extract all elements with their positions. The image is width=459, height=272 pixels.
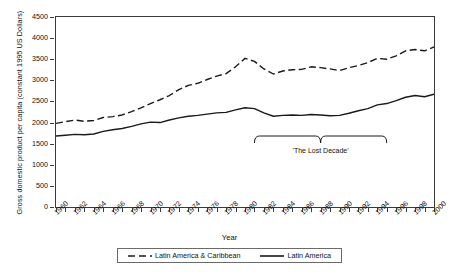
x-axis-tick-labels: 1960196219641966196819701972197419761978… bbox=[0, 0, 459, 272]
x-tick-label: 1980 bbox=[242, 200, 259, 217]
x-tick-label: 1982 bbox=[261, 200, 278, 217]
legend-item-latin-america-caribbean[interactable]: Latin America & Caribbean bbox=[128, 251, 241, 260]
x-tick-label: 1994 bbox=[374, 200, 391, 217]
x-tick-label: 1992 bbox=[355, 200, 372, 217]
x-tick-label: 1968 bbox=[129, 200, 146, 217]
x-tick-label: 1966 bbox=[110, 200, 127, 217]
x-tick-label: 1964 bbox=[91, 200, 108, 217]
chart-figure: Gross domestic product per capita (const… bbox=[0, 0, 459, 272]
x-tick-label: 1960 bbox=[53, 200, 70, 217]
x-tick-label: 1962 bbox=[72, 200, 89, 217]
x-tick-label: 1984 bbox=[280, 200, 297, 217]
legend-label: Latin America bbox=[287, 251, 331, 260]
x-tick-label: 1976 bbox=[204, 200, 221, 217]
x-tick-label: 1988 bbox=[318, 200, 335, 217]
x-tick-label: 1998 bbox=[412, 200, 429, 217]
chart-legend: Latin America & Caribbean Latin America bbox=[117, 248, 342, 263]
legend-label: Latin America & Caribbean bbox=[155, 251, 241, 260]
x-tick-label: 1996 bbox=[393, 200, 410, 217]
x-tick-label: 2000 bbox=[431, 200, 448, 217]
x-tick-label: 1986 bbox=[299, 200, 316, 217]
legend-item-latin-america[interactable]: Latin America bbox=[260, 251, 331, 260]
x-tick-label: 1978 bbox=[223, 200, 240, 217]
legend-swatch-solid-icon bbox=[260, 253, 284, 259]
x-tick-label: 1972 bbox=[166, 200, 183, 217]
x-tick-label: 1970 bbox=[148, 200, 165, 217]
annotation-label: 'The Lost Decade' bbox=[293, 147, 349, 154]
x-tick-label: 1974 bbox=[185, 200, 202, 217]
x-tick-label: 1990 bbox=[337, 200, 354, 217]
legend-swatch-dashed-icon bbox=[128, 253, 152, 259]
x-axis-title: Year bbox=[0, 233, 459, 242]
